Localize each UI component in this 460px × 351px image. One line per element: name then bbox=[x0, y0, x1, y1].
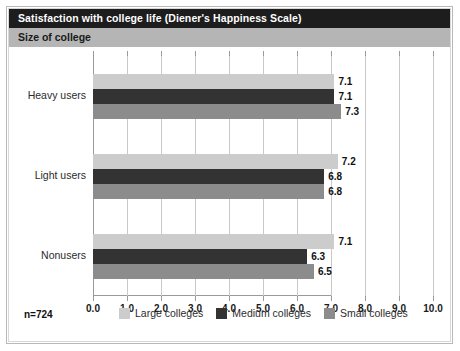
x-tick-bottom bbox=[263, 296, 264, 301]
x-tick-bottom bbox=[433, 296, 434, 301]
x-tick-bottom bbox=[399, 296, 400, 301]
bar-value-label: 6.5 bbox=[318, 264, 332, 279]
bar-value-label: 7.1 bbox=[338, 234, 352, 249]
x-tick-bottom bbox=[297, 296, 298, 301]
bar-value-label: 6.3 bbox=[311, 249, 325, 264]
legend-swatch-icon bbox=[119, 308, 130, 319]
bar bbox=[93, 104, 341, 119]
legend-swatch-icon bbox=[216, 308, 227, 319]
x-tick-top bbox=[93, 51, 94, 56]
legend-item[interactable]: Small colleges bbox=[324, 307, 408, 319]
x-tick-top bbox=[331, 51, 332, 56]
x-tick-top bbox=[229, 51, 230, 56]
category-label: Heavy users bbox=[28, 89, 86, 101]
x-tick-bottom bbox=[331, 296, 332, 301]
gridline bbox=[433, 56, 434, 296]
x-tick-bottom bbox=[195, 296, 196, 301]
x-tick-top bbox=[297, 51, 298, 56]
plot-wrapper: 0.01.02.03.04.05.06.07.08.09.010.0 Heavy… bbox=[9, 47, 450, 343]
x-tick-top bbox=[161, 51, 162, 56]
chart-page: Satisfaction with college life (Diener's… bbox=[0, 0, 460, 351]
bar-value-label: 6.8 bbox=[328, 169, 342, 184]
x-tick-top bbox=[263, 51, 264, 56]
page-title: Satisfaction with college life (Diener's… bbox=[9, 9, 450, 28]
bar bbox=[93, 264, 314, 279]
bar bbox=[93, 169, 324, 184]
chart-subtitle: Size of college bbox=[9, 28, 450, 47]
x-tick-bottom bbox=[229, 296, 230, 301]
legend-item[interactable]: Medium colleges bbox=[216, 307, 311, 319]
legend-item[interactable]: Large colleges bbox=[119, 307, 203, 319]
legend-swatch-icon bbox=[324, 308, 335, 319]
bar-value-label: 7.1 bbox=[338, 89, 352, 104]
x-tick-top bbox=[399, 51, 400, 56]
bar-value-label: 6.8 bbox=[328, 184, 342, 199]
x-tick-bottom bbox=[161, 296, 162, 301]
chart-legend: n=724 Large collegesMedium collegesSmall… bbox=[9, 305, 450, 329]
bar bbox=[93, 89, 334, 104]
legend-items: Large collegesMedium collegesSmall colle… bbox=[119, 307, 408, 319]
bar bbox=[93, 74, 334, 89]
gridline bbox=[365, 56, 366, 296]
x-tick-bottom bbox=[93, 296, 94, 301]
category-label: Nonusers bbox=[41, 249, 86, 261]
legend-label: Medium colleges bbox=[232, 307, 311, 319]
bar bbox=[93, 184, 324, 199]
bar bbox=[93, 249, 307, 264]
x-tick-top bbox=[365, 51, 366, 56]
sample-size-label: n=724 bbox=[24, 309, 53, 320]
legend-label: Large colleges bbox=[135, 307, 203, 319]
bar bbox=[93, 234, 334, 249]
bar-value-label: 7.1 bbox=[338, 74, 352, 89]
legend-label: Small colleges bbox=[340, 307, 408, 319]
x-tick-top bbox=[195, 51, 196, 56]
gridline bbox=[399, 56, 400, 296]
x-tick-bottom bbox=[365, 296, 366, 301]
bar bbox=[93, 154, 338, 169]
x-tick-bottom bbox=[127, 296, 128, 301]
x-tick-top bbox=[127, 51, 128, 56]
bar-value-label: 7.2 bbox=[342, 154, 356, 169]
x-tick-top bbox=[433, 51, 434, 56]
bar-value-label: 7.3 bbox=[345, 104, 359, 119]
category-label: Light users bbox=[35, 169, 86, 181]
